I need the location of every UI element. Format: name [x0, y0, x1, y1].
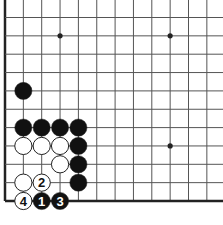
black-stone-circle [15, 119, 32, 136]
board-grid [5, 0, 223, 201]
move-number-label: 1 [38, 194, 45, 209]
star-point [168, 33, 173, 38]
star-point [168, 143, 173, 148]
black-stone [70, 174, 87, 191]
black-stone-circle [15, 82, 32, 99]
move-number-label: 2 [38, 175, 45, 190]
black-stone [51, 119, 68, 136]
star-point [57, 33, 62, 38]
black-stone-circle [70, 137, 87, 154]
move-number-label: 3 [56, 194, 63, 209]
black-stone: 1 [33, 192, 50, 209]
black-stone-circle [70, 119, 87, 136]
black-stone-circle [70, 174, 87, 191]
white-stone [51, 156, 68, 173]
white-stone [15, 137, 32, 154]
black-stone [70, 156, 87, 173]
black-stone [70, 119, 87, 136]
black-stone [70, 137, 87, 154]
black-stone [15, 119, 32, 136]
go-board: 2413 [0, 0, 223, 225]
black-stone-circle [70, 156, 87, 173]
white-stone: 4 [15, 192, 32, 209]
black-stone-circle [51, 119, 68, 136]
white-stone [15, 174, 32, 191]
white-stone-circle [15, 137, 32, 154]
black-stone [33, 119, 50, 136]
white-stone [51, 137, 68, 154]
move-number-label: 4 [20, 194, 28, 209]
white-stone-circle [51, 156, 68, 173]
white-stone-circle [33, 137, 50, 154]
white-stone [33, 137, 50, 154]
black-stone-circle [33, 119, 50, 136]
black-stone: 3 [51, 192, 68, 209]
white-stone: 2 [33, 174, 50, 191]
white-stone-circle [51, 137, 68, 154]
white-stone-circle [15, 174, 32, 191]
black-stone [15, 82, 32, 99]
